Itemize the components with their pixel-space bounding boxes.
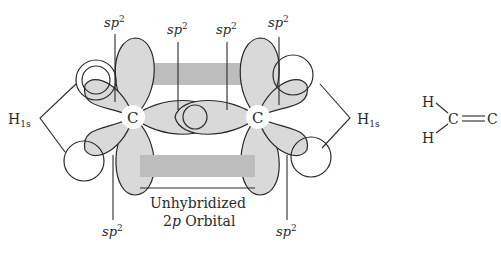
struct-c-right: C	[487, 111, 498, 127]
carbon-right-label: C	[252, 109, 263, 127]
sp2-label-4: sp2	[268, 14, 289, 30]
sp2-label-1: sp2	[104, 14, 125, 30]
sp2-label-3: sp2	[216, 21, 237, 37]
struct-c-left: C	[448, 111, 459, 127]
ethene-structural-formula: H H C C	[422, 94, 498, 146]
sp2-label-6: sp2	[276, 223, 297, 239]
struct-h-bottom: H	[422, 130, 434, 146]
h-left-bracket	[40, 84, 76, 152]
right-sigma-lobe	[175, 101, 258, 135]
p-orbital-top	[140, 63, 255, 85]
struct-h-top: H	[422, 94, 434, 110]
struct-bond-h-top	[436, 103, 448, 113]
carbon-left-label: C	[127, 109, 138, 127]
h1s-left-label: H1s	[8, 111, 31, 129]
unhybridized-label-line1: Unhybridized	[150, 195, 246, 211]
h1s-lower-right-circle	[291, 137, 331, 177]
h-right-bracket	[320, 84, 350, 148]
struct-bond-h-bottom	[436, 124, 448, 133]
sp2-label-2: sp2	[167, 21, 188, 37]
sp2-label-5: sp2	[102, 223, 123, 239]
unhybridized-label-line2: 2p Orbital	[163, 213, 236, 229]
h1s-right-label: H1s	[357, 111, 380, 129]
p-orbital-bottom	[140, 155, 255, 177]
orbital-diagram: C C sp2 sp2 sp2 sp2 sp2 sp2 H1s H1s Unhy…	[0, 0, 501, 253]
